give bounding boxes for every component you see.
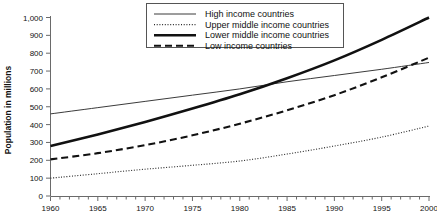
y-tick-label: 600 — [30, 85, 44, 94]
legend-label: Upper middle income countries — [205, 20, 330, 30]
chart-legend: High income countriesUpper middle income… — [147, 4, 344, 52]
y-tick-label: 400 — [30, 121, 44, 130]
x-tick-label: 1995 — [373, 204, 391, 213]
x-tick-label: 1960 — [42, 204, 60, 213]
y-tick-label: 500 — [30, 103, 44, 112]
series-line-low-income-countries — [51, 58, 430, 160]
x-tick-label: 1965 — [89, 204, 107, 213]
population-line-chart: Population in millions 01002003004005006… — [0, 0, 437, 222]
x-axis-ticks: 196019651970197519801985199019952000 — [42, 197, 437, 214]
y-axis-ticks: 01002003004005006007008009001,000 — [23, 14, 51, 202]
y-tick-label: 300 — [30, 138, 44, 147]
legend-label: High income countries — [205, 9, 295, 19]
x-tick-label: 1970 — [136, 204, 154, 213]
x-tick-label: 2000 — [420, 204, 437, 213]
x-tick-label: 1985 — [278, 204, 296, 213]
y-tick-label: 900 — [30, 31, 44, 40]
y-tick-label: 100 — [30, 174, 44, 183]
x-tick-label: 1980 — [231, 204, 249, 213]
x-tick-label: 1975 — [184, 204, 202, 213]
y-tick-label: 0 — [39, 192, 44, 201]
legend-label: Low income countries — [205, 41, 293, 51]
y-axis-title-group: Population in millions — [3, 66, 13, 155]
legend-label: Lower middle income countries — [205, 30, 330, 40]
y-axis-title: Population in millions — [3, 66, 13, 155]
chart-canvas: Population in millions 01002003004005006… — [0, 0, 437, 222]
x-tick-label: 1990 — [325, 204, 343, 213]
y-tick-label: 700 — [30, 67, 44, 76]
y-tick-label: 200 — [30, 156, 44, 165]
y-tick-label: 800 — [30, 49, 44, 58]
series-line-high-income-countries — [51, 62, 430, 113]
y-tick-label: 1,000 — [23, 14, 44, 23]
